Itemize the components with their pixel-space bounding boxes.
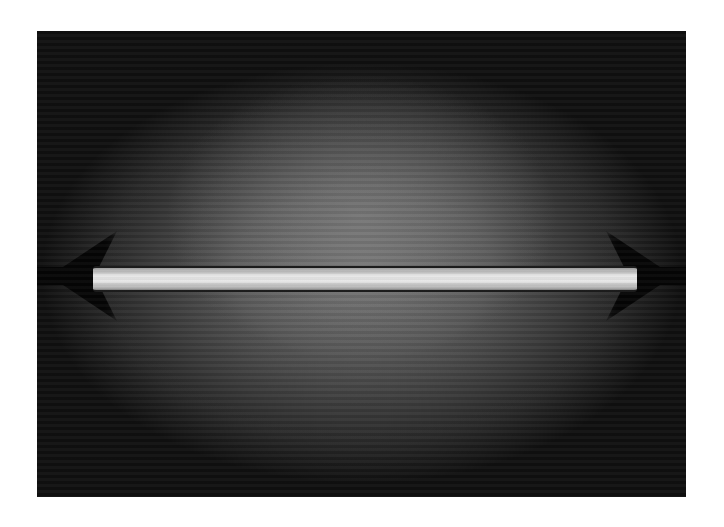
fluorescent-tube xyxy=(93,266,637,292)
photograph: Black-and-white photograph of a horizont… xyxy=(37,31,686,497)
